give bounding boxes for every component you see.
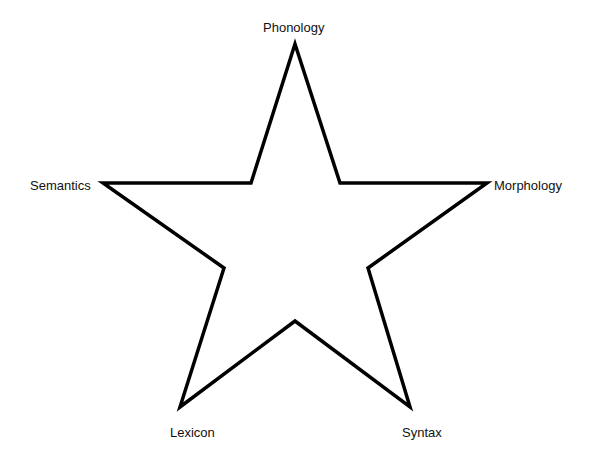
star-shape: [103, 44, 487, 407]
label-lexicon: Lexicon: [170, 425, 215, 441]
star-diagram: Phonology Morphology Syntax Lexicon Sema…: [0, 0, 597, 460]
label-morphology: Morphology: [494, 178, 562, 194]
star-svg: [0, 0, 597, 460]
label-syntax: Syntax: [402, 425, 442, 441]
label-semantics: Semantics: [30, 178, 91, 194]
label-phonology: Phonology: [263, 20, 324, 36]
